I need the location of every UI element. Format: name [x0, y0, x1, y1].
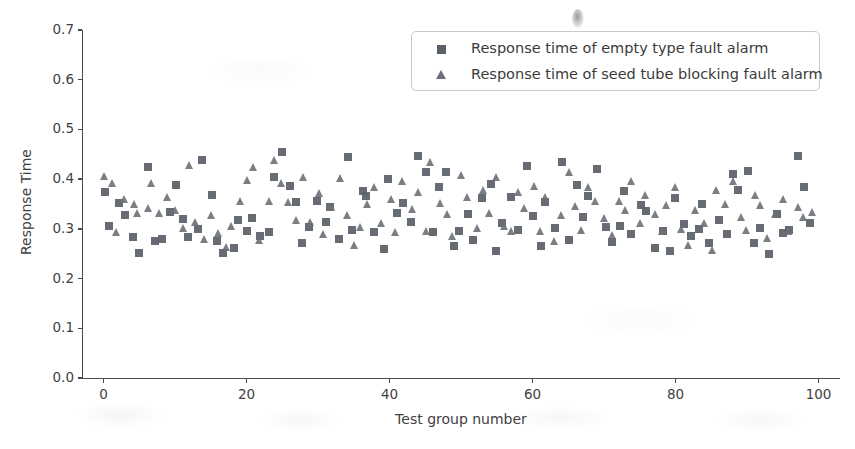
data-point-seed-tube-blocking	[763, 234, 771, 242]
data-point-seed-tube-blocking	[414, 188, 422, 196]
data-point-seed-tube-blocking	[771, 210, 779, 218]
data-point-seed-tube-blocking	[306, 218, 314, 226]
data-point-empty-type	[399, 199, 407, 207]
data-point-empty-type	[243, 227, 251, 235]
data-point-empty-type	[627, 230, 635, 238]
data-point-seed-tube-blocking	[292, 216, 300, 224]
y-axis-tick-label: 0.7	[30, 21, 74, 37]
data-point-seed-tube-blocking	[319, 230, 327, 238]
y-axis-tick	[78, 129, 82, 130]
data-point-empty-type	[248, 214, 256, 222]
data-point-seed-tube-blocking	[436, 199, 444, 207]
y-axis-tick-label: 0.2	[30, 270, 74, 286]
data-point-seed-tube-blocking	[315, 189, 323, 197]
x-axis-tick-label: 80	[651, 386, 701, 402]
data-point-empty-type	[573, 181, 581, 189]
data-point-seed-tube-blocking	[691, 206, 699, 214]
data-point-seed-tube-blocking	[363, 200, 371, 208]
data-point-seed-tube-blocking	[651, 210, 659, 218]
data-point-seed-tube-blocking	[615, 197, 623, 205]
data-point-seed-tube-blocking	[356, 223, 364, 231]
data-point-empty-type	[265, 228, 273, 236]
data-point-empty-type	[115, 199, 123, 207]
y-axis-label: Response Time	[18, 102, 34, 302]
data-point-seed-tube-blocking	[284, 198, 292, 206]
y-axis-tick-label: 0.4	[30, 170, 74, 186]
data-point-empty-type	[659, 227, 667, 235]
legend-triangle-marker-icon	[436, 70, 446, 79]
data-point-empty-type	[593, 165, 601, 173]
data-point-seed-tube-blocking	[112, 228, 120, 236]
data-point-empty-type	[507, 193, 515, 201]
data-point-empty-type	[348, 226, 356, 234]
data-point-empty-type	[464, 210, 472, 218]
data-point-seed-tube-blocking	[571, 202, 579, 210]
data-point-empty-type	[773, 210, 781, 218]
data-point-empty-type	[213, 237, 221, 245]
x-axis-tick-label: 60	[508, 386, 558, 402]
data-point-empty-type	[184, 233, 192, 241]
data-point-seed-tube-blocking	[808, 208, 816, 216]
data-point-seed-tube-blocking	[591, 197, 599, 205]
data-point-seed-tube-blocking	[236, 197, 244, 205]
data-point-seed-tube-blocking	[200, 235, 208, 243]
data-point-seed-tube-blocking	[729, 177, 737, 185]
data-point-empty-type	[671, 194, 679, 202]
x-axis-tick-label: 100	[794, 386, 844, 402]
data-point-seed-tube-blocking	[514, 188, 522, 196]
x-axis-spine	[82, 378, 840, 379]
data-point-seed-tube-blocking	[485, 209, 493, 217]
data-point-seed-tube-blocking	[565, 168, 573, 176]
data-point-empty-type	[492, 247, 500, 255]
data-point-seed-tube-blocking	[422, 227, 430, 235]
x-axis-tick	[818, 379, 819, 383]
data-point-empty-type	[230, 244, 238, 252]
data-point-empty-type	[715, 216, 723, 224]
data-point-seed-tube-blocking	[463, 193, 471, 201]
data-point-empty-type	[455, 227, 463, 235]
data-point-empty-type	[687, 232, 695, 240]
data-point-empty-type	[166, 208, 174, 216]
y-axis-tick-label: 0.3	[30, 220, 74, 236]
data-point-empty-type	[729, 170, 737, 178]
y-axis-tick	[78, 79, 82, 80]
data-point-empty-type	[234, 216, 242, 224]
data-point-empty-type	[305, 223, 313, 231]
data-point-seed-tube-blocking	[299, 173, 307, 181]
data-point-seed-tube-blocking	[700, 219, 708, 227]
data-point-seed-tube-blocking	[621, 206, 629, 214]
data-point-empty-type	[551, 224, 559, 232]
data-point-empty-type	[270, 173, 278, 181]
data-point-seed-tube-blocking	[265, 197, 273, 205]
data-point-seed-tube-blocking	[387, 195, 395, 203]
data-point-seed-tube-blocking	[448, 232, 456, 240]
data-point-empty-type	[151, 237, 159, 245]
data-point-empty-type	[380, 245, 388, 253]
data-point-seed-tube-blocking	[557, 211, 565, 219]
data-point-empty-type	[806, 219, 814, 227]
data-point-seed-tube-blocking	[370, 183, 378, 191]
data-point-empty-type	[487, 180, 495, 188]
data-point-seed-tube-blocking	[641, 191, 649, 199]
data-point-seed-tube-blocking	[408, 205, 416, 213]
data-point-empty-type	[359, 187, 367, 195]
x-axis-tick-label: 0	[78, 386, 128, 402]
data-point-seed-tube-blocking	[751, 191, 759, 199]
data-point-empty-type	[194, 225, 202, 233]
y-axis-tick-label: 0.0	[30, 369, 74, 385]
x-axis-tick	[389, 379, 390, 383]
data-point-empty-type	[723, 230, 731, 238]
data-point-seed-tube-blocking	[658, 227, 666, 235]
data-point-seed-tube-blocking	[144, 204, 152, 212]
scatter-chart-figure: 0.00.10.20.30.40.50.60.7020406080100Resp…	[0, 0, 855, 449]
data-point-empty-type	[695, 225, 703, 233]
data-point-empty-type	[705, 239, 713, 247]
chart-legend: Response time of empty type fault alarm …	[411, 31, 820, 91]
data-point-seed-tube-blocking	[473, 224, 481, 232]
x-axis-tick	[246, 379, 247, 383]
data-point-empty-type	[435, 183, 443, 191]
data-point-empty-type	[429, 228, 437, 236]
data-point-seed-tube-blocking	[550, 237, 558, 245]
data-point-empty-type	[384, 175, 392, 183]
y-axis-spine	[82, 30, 83, 378]
